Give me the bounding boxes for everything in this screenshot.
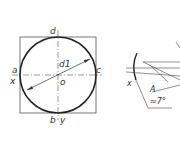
label-d1: d1 [59,59,70,69]
label-y: y [59,115,66,125]
label-d: d [50,26,56,36]
curved-edge [134,53,137,80]
arrowhead-upper [84,59,90,63]
slant-line-2 [150,65,168,82]
diagram-canvas: d a c x o d1 b y x A ≈7° [0,0,180,158]
partial-sketch-figure: x A ≈7° [126,42,180,108]
slant-line-1 [143,62,180,80]
label-x-right: x [126,79,132,88]
circle-in-square-figure: d a c x o d1 b y [9,26,102,125]
label-b: b [50,115,56,125]
label-A: A [149,85,155,94]
label-o: o [60,77,66,87]
lower-slant-line [136,80,148,108]
label-x: x [9,76,16,86]
label-c: c [96,65,101,75]
label-a: a [12,65,18,75]
arrowhead-lower [27,86,33,90]
label-angle: ≈7° [150,97,166,106]
angle-line [152,85,180,92]
upper-right-stroke [176,42,180,48]
